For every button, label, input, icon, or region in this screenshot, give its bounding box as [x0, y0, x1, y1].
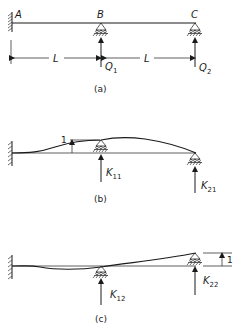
deflected-shape: [12, 138, 196, 153]
continuous-beam-diagram: A B C L L Q1 Q2 (a): [0, 0, 238, 331]
fixed-support-icon: [8, 255, 12, 279]
force-label-k11: K11: [106, 167, 121, 181]
dimension-lines: [11, 40, 193, 64]
unit-displacement-label: 1: [227, 255, 233, 265]
force-label-k12: K12: [110, 289, 125, 303]
dimension-label-l2: L: [144, 53, 150, 64]
unit-displacement-label: 1: [61, 135, 67, 145]
deflected-shape: [12, 253, 196, 269]
roller-support-icon: [187, 153, 202, 165]
dimension-label-l1: L: [53, 53, 59, 64]
panel-a: A B C L L Q1 Q2 (a): [8, 9, 211, 94]
fixed-support-icon: [8, 141, 12, 166]
fixed-support-icon: [8, 12, 12, 32]
roller-support-icon: [93, 140, 108, 152]
point-label-a: A: [14, 9, 22, 20]
force-label-q1: Q1: [105, 61, 117, 75]
panel-c: 1 K12 K22 (c): [8, 253, 233, 324]
force-label-k22: K22: [203, 275, 218, 289]
caption-c: (c): [95, 314, 107, 324]
caption-a: (a): [94, 84, 107, 94]
force-label-q2: Q2: [199, 62, 211, 76]
point-label-c: C: [191, 9, 198, 20]
point-label-b: B: [97, 9, 104, 20]
roller-support-icon: [187, 23, 202, 36]
roller-support-icon: [93, 23, 108, 36]
caption-b: (b): [94, 194, 107, 204]
panel-b: 1 K11 K21 (b): [8, 135, 216, 204]
force-label-k21: K21: [201, 180, 216, 194]
